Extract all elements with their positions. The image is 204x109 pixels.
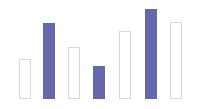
bar-5 (119, 31, 131, 99)
bar-7 (170, 22, 182, 99)
bar-2 (43, 23, 55, 99)
bar-1 (19, 59, 31, 99)
chart-plot-area (0, 0, 204, 109)
bar-chart-screenshot (0, 0, 204, 109)
bar-6 (145, 9, 157, 99)
bar-3 (68, 47, 80, 99)
bar-4 (93, 66, 105, 99)
